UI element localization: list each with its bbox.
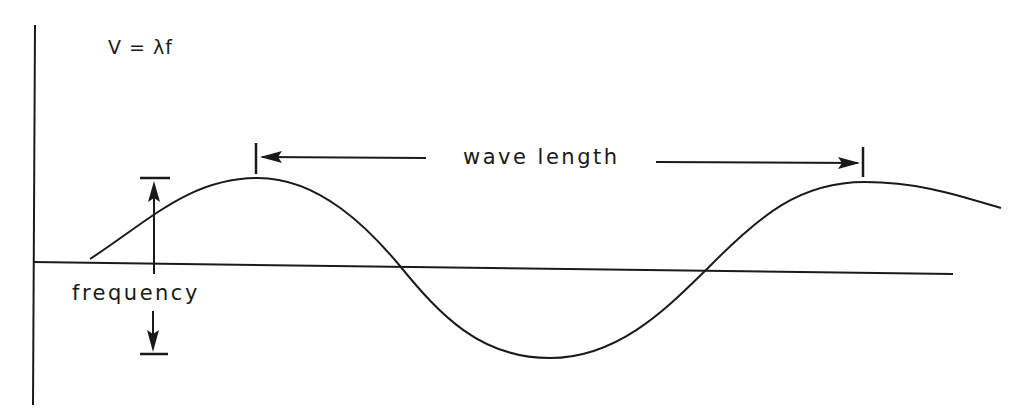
formula-label: V = λf	[108, 36, 173, 58]
wavelength-right-arrow-shaft	[656, 162, 858, 163]
wavelength-left-arrow-shaft	[262, 157, 426, 158]
frequency-label: frequency	[72, 281, 200, 305]
horizontal-axis	[33, 262, 953, 274]
wavelength-label: wave length	[463, 145, 620, 169]
vertical-axis	[33, 25, 35, 405]
wave-diagram	[0, 0, 1026, 413]
